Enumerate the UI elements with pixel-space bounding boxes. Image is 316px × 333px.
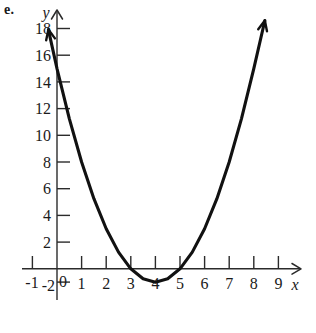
y-tick-label-14: 14	[35, 74, 51, 91]
x-tick-label-1: 1	[78, 275, 86, 292]
y-tick-label-12: 12	[35, 100, 51, 117]
x-tick-label-9: 9	[274, 275, 282, 292]
y-tick-label-8: 8	[43, 154, 51, 171]
x-tick-label-8: 8	[250, 275, 258, 292]
figure-container: e. 18 16 14 12 10 8 6 4 2	[0, 0, 316, 333]
x-tick-label-3: 3	[127, 275, 135, 292]
y-tick-label-4: 4	[43, 207, 51, 224]
y-axis-label: y	[40, 4, 50, 22]
y-tick-label-10: 10	[35, 127, 51, 144]
x-tick-label-6: 6	[201, 275, 209, 292]
y-tick-label-minus-2: -2	[42, 277, 55, 294]
x-tick-label-5: 5	[176, 275, 184, 292]
x-axis-group: -1 0 1 2 3 4 5 6 7 8 9 x	[22, 256, 301, 293]
parabola-graph: 18 16 14 12 10 8 6 4 2 -2 y	[0, 0, 316, 333]
y-tick-label-6: 6	[43, 180, 51, 197]
x-tick-label-7: 7	[225, 275, 233, 292]
x-tick-label-2: 2	[102, 275, 110, 292]
x-tick-label-minus-1: -1	[25, 274, 38, 291]
y-tick-label-2: 2	[43, 234, 51, 251]
parabola-curve	[48, 20, 264, 282]
y-tick-label-16: 16	[35, 47, 51, 64]
parabola-curve-group	[46, 20, 267, 282]
x-tick-label-0: 0	[59, 273, 67, 290]
figure-part-label: e.	[4, 2, 14, 18]
x-axis-label: x	[290, 276, 298, 293]
